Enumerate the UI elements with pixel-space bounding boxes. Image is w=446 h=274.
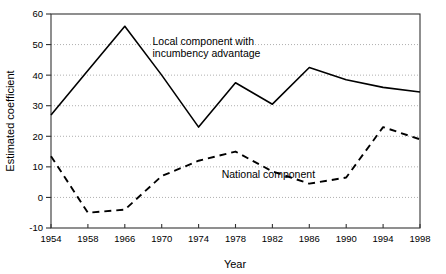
x-tick-label: 1954: [40, 233, 61, 244]
local-annotation-line2: incumbency advantage: [152, 47, 260, 59]
x-axis-title: Year: [224, 258, 247, 270]
x-tick-label: 1994: [373, 233, 394, 244]
x-tick-label: 1998: [409, 233, 430, 244]
x-tick-label: 1982: [262, 233, 283, 244]
y-tick-label: 10: [32, 161, 43, 172]
y-tick-label: 50: [32, 39, 43, 50]
x-tick-label: 1978: [225, 233, 246, 244]
y-tick-label: 0: [38, 192, 43, 203]
y-tick-label: 30: [32, 100, 43, 111]
y-tick-label: 20: [32, 131, 43, 142]
y-tick-label: -10: [29, 222, 43, 233]
x-tick-label: 1970: [151, 233, 172, 244]
y-axis-title: Estimated coefficient: [4, 70, 16, 171]
x-tick-label: 1986: [299, 233, 320, 244]
national-annotation: National component: [222, 168, 315, 180]
y-tick-label: 40: [32, 70, 43, 81]
x-tick-label: 1966: [114, 233, 135, 244]
x-tick-label: 1974: [188, 233, 209, 244]
local-annotation-line1: Local component with: [152, 35, 254, 47]
chart-svg: -100102030405060 19541958196619701974197…: [0, 0, 446, 274]
chart-figure: -100102030405060 19541958196619701974197…: [0, 0, 446, 274]
x-tick-label: 1990: [336, 233, 357, 244]
x-tick-label: 1958: [77, 233, 98, 244]
y-tick-label: 60: [32, 8, 43, 19]
